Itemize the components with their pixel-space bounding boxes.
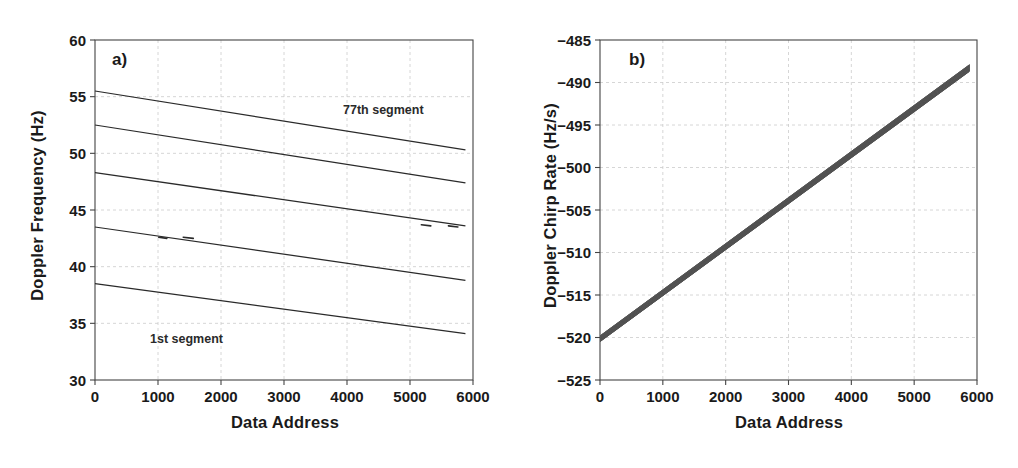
svg-text:60: 60 (69, 32, 86, 49)
svg-text:−505: −505 (557, 202, 591, 219)
svg-text:50: 50 (69, 145, 86, 162)
svg-text:−515: −515 (557, 287, 591, 304)
svg-text:−525: −525 (557, 372, 591, 389)
svg-text:40: 40 (69, 258, 86, 275)
svg-text:1000: 1000 (646, 388, 679, 405)
panel-b-plot: 0100020003000400050006000−525−520−515−51… (509, 0, 1018, 468)
panel-b: 0100020003000400050006000−525−520−515−51… (509, 0, 1018, 468)
svg-text:6000: 6000 (960, 388, 993, 405)
panel-b-y-axis-label: Doppler Chirp Rate (Hz/s) (541, 81, 560, 331)
svg-text:0: 0 (596, 388, 604, 405)
svg-text:45: 45 (69, 202, 86, 219)
svg-text:4000: 4000 (835, 388, 868, 405)
svg-text:2000: 2000 (709, 388, 742, 405)
svg-text:6000: 6000 (456, 388, 489, 405)
svg-text:−510: −510 (557, 244, 591, 261)
svg-text:3000: 3000 (267, 388, 300, 405)
svg-text:2000: 2000 (204, 388, 237, 405)
figure-container: 010002000300040005000600030354045505560 … (0, 0, 1018, 468)
svg-text:30: 30 (69, 372, 86, 389)
svg-text:5000: 5000 (393, 388, 426, 405)
svg-text:3000: 3000 (772, 388, 805, 405)
panel-a-first-segment-label: 1st segment (150, 332, 223, 346)
svg-text:−490: −490 (557, 74, 591, 91)
panel-a-tag: a) (112, 50, 127, 70)
svg-text:−495: −495 (557, 117, 591, 134)
panel-a-last-segment-label: 77th segment (343, 103, 424, 117)
svg-text:35: 35 (69, 315, 86, 332)
svg-text:4000: 4000 (330, 388, 363, 405)
panel-a: 010002000300040005000600030354045505560 … (0, 0, 509, 468)
svg-text:0: 0 (91, 388, 99, 405)
svg-text:5000: 5000 (897, 388, 930, 405)
panel-a-x-axis-label: Data Address (95, 413, 475, 432)
panel-b-x-axis-label: Data Address (599, 413, 979, 432)
svg-text:55: 55 (69, 88, 86, 105)
panel-a-y-axis-label: Doppler Frequency (Hz) (28, 81, 47, 331)
panel-b-tag: b) (629, 50, 645, 70)
panel-a-plot: 010002000300040005000600030354045505560 (0, 0, 509, 468)
svg-text:−500: −500 (557, 159, 591, 176)
svg-text:−520: −520 (557, 329, 591, 346)
svg-text:−485: −485 (557, 32, 591, 49)
svg-text:1000: 1000 (141, 388, 174, 405)
